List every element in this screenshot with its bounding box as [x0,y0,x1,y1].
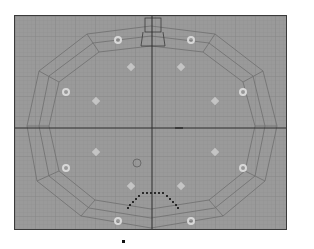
pivot-dot [122,240,125,243]
pivot-marker [175,127,183,129]
grid [15,16,287,230]
3d-viewport-top[interactable] [14,15,287,230]
viewport-canvas [15,16,287,230]
